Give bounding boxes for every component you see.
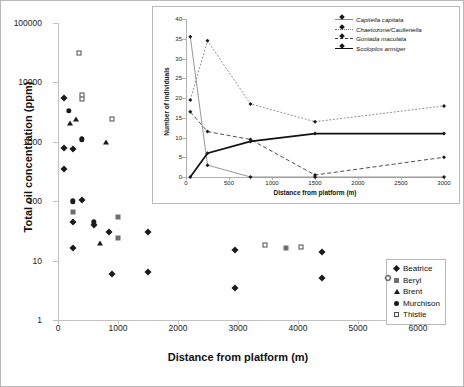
data-point-beryl	[71, 210, 76, 215]
main-x-tick-label: 1000	[109, 323, 128, 333]
legend-marker-square-icon	[390, 278, 403, 283]
legend-item-murchison[interactable]: Murchison	[390, 298, 440, 310]
main-y-tick-label: 100000	[0, 18, 42, 28]
main-x-tick-mark	[298, 320, 299, 324]
inset-marker	[206, 163, 210, 167]
main-x-tick-label: 2000	[169, 323, 188, 333]
inset-marker	[249, 102, 253, 106]
main-legend: BeatriceBerylBrentMurchisonThistle	[386, 259, 446, 325]
inset-marker	[442, 175, 446, 179]
inset-marker	[313, 120, 317, 124]
inset-marker	[313, 132, 317, 136]
inset-line-chart: 0510152025303540 05001000150020002500300…	[152, 6, 460, 204]
data-point-thistle	[263, 243, 268, 248]
legend-label: Beatrice	[403, 264, 432, 273]
data-point-thistle	[80, 97, 85, 102]
data-point-thistle	[386, 276, 391, 281]
legend-item-thistle[interactable]: Thistle	[390, 309, 440, 321]
main-x-tick-mark	[358, 320, 359, 324]
data-point-brent	[103, 139, 109, 144]
inset-marker	[188, 35, 192, 39]
data-point-beryl	[116, 236, 121, 241]
legend-label: Murchison	[403, 299, 440, 308]
inset-marker	[442, 155, 446, 159]
legend-marker-open-square-icon	[390, 312, 403, 317]
main-y-tick-label: 10000	[0, 77, 42, 87]
inset-marker	[188, 98, 192, 102]
main-x-tick-label: 4000	[289, 323, 308, 333]
main-x-axis-label: Distance from platform (m)	[58, 351, 418, 363]
inset-marker	[206, 39, 210, 43]
inset-series-layer	[153, 7, 459, 203]
main-x-tick-label: 0	[56, 323, 61, 333]
inset-marker	[442, 132, 446, 136]
main-x-tick-label: 3000	[229, 323, 248, 333]
inset-marker	[206, 130, 210, 134]
legend-label: Brent	[403, 287, 422, 296]
main-x-tick-mark	[58, 320, 59, 324]
legend-item-beryl[interactable]: Beryl	[390, 275, 440, 287]
legend-marker-triangle-icon	[390, 289, 403, 294]
data-point-beryl	[116, 214, 121, 219]
inset-line-goniada	[190, 112, 444, 175]
main-x-tick-mark	[178, 320, 179, 324]
legend-item-beatrice[interactable]: Beatrice	[390, 263, 440, 275]
main-y-tick-label: 100	[0, 196, 42, 206]
legend-label: Thistle	[403, 310, 427, 319]
main-x-tick-mark	[238, 320, 239, 324]
main-x-tick-label: 5000	[349, 323, 368, 333]
main-y-tick-label: 10	[0, 256, 42, 266]
legend-marker-circle-icon	[390, 301, 403, 306]
main-y-axis-label: Total oil concentration (ppm)	[22, 37, 34, 277]
data-point-thistle	[77, 51, 82, 56]
inset-marker	[442, 104, 446, 108]
legend-item-brent[interactable]: Brent	[390, 286, 440, 298]
data-point-thistle	[299, 244, 304, 249]
legend-marker-diamond-icon	[390, 266, 403, 271]
main-x-tick-mark	[118, 320, 119, 324]
inset-line-capitella	[190, 37, 444, 177]
inset-marker	[249, 175, 253, 179]
data-point-brent	[73, 117, 79, 122]
data-point-thistle	[110, 117, 115, 122]
data-point-beryl	[284, 246, 289, 251]
main-y-tick-label: 1000	[0, 137, 42, 147]
data-point-brent	[97, 240, 103, 245]
legend-label: Beryl	[403, 276, 421, 285]
main-x-tick-label: 6000	[409, 323, 428, 333]
main-y-tick-label: 1	[0, 315, 42, 325]
inset-line-chaetozone/caulleriella	[190, 41, 444, 122]
